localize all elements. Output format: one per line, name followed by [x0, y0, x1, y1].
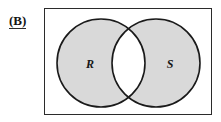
venn-svg: R S [44, 8, 212, 115]
set-label-r: R [85, 57, 94, 71]
panel-label-b: (B) [9, 13, 26, 29]
set-label-s: S [167, 57, 174, 71]
venn-diagram-figure: (B) R S [0, 0, 221, 122]
